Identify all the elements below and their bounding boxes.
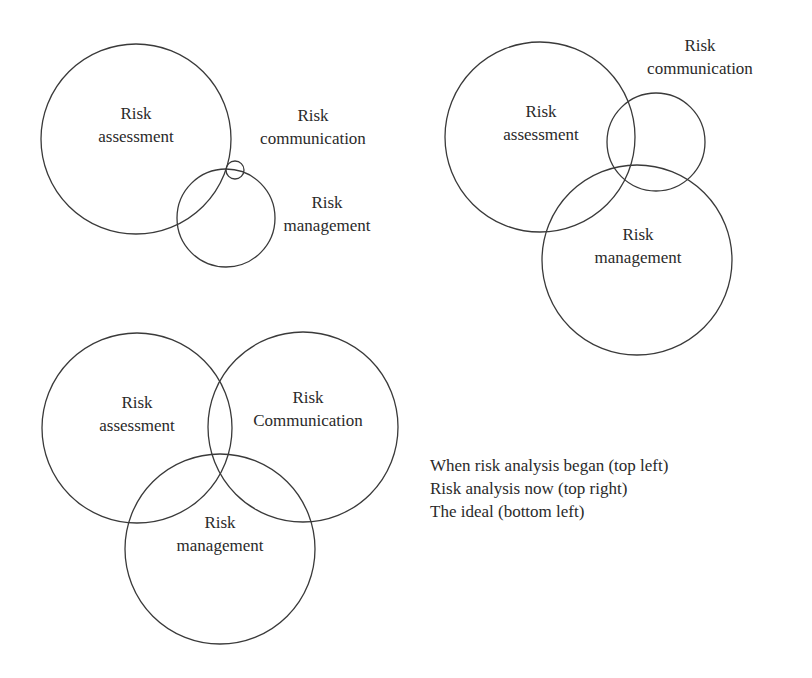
label-risk-communication: RiskCommunication	[253, 386, 363, 432]
label-risk-management: Riskmanagement	[284, 191, 371, 237]
venn-bottom-left	[42, 332, 398, 644]
label-line-2: assessment	[98, 125, 174, 148]
label-line-2: assessment	[503, 123, 579, 146]
label-risk-management: Riskmanagement	[595, 223, 682, 269]
label-line-2: assessment	[99, 414, 175, 437]
label-risk-communication: Riskcommunication	[260, 104, 366, 150]
label-line-1: Risk	[260, 104, 366, 127]
legend-item-bottom-left: The ideal (bottom left)	[430, 500, 668, 523]
label-line-2: management	[177, 534, 264, 557]
label-line-1: Risk	[99, 391, 175, 414]
label-line-1: Risk	[284, 191, 371, 214]
label-line-2: Communication	[253, 409, 363, 432]
label-line-1: Risk	[595, 223, 682, 246]
label-risk-assessment: Riskassessment	[503, 100, 579, 146]
label-line-1: Risk	[177, 511, 264, 534]
label-risk-assessment: Riskassessment	[99, 391, 175, 437]
label-line-2: communication	[647, 57, 753, 80]
label-risk-management: Riskmanagement	[177, 511, 264, 557]
legend-item-top-right: Risk analysis now (top right)	[430, 477, 668, 500]
circle-risk-management	[177, 169, 275, 267]
label-line-2: communication	[260, 127, 366, 150]
label-line-1: Risk	[98, 102, 174, 125]
label-line-1: Risk	[647, 34, 753, 57]
label-line-1: Risk	[253, 386, 363, 409]
label-risk-assessment: Riskassessment	[98, 102, 174, 148]
label-line-2: management	[284, 214, 371, 237]
label-line-1: Risk	[503, 100, 579, 123]
venn-top-right	[445, 42, 732, 355]
venn-top-left	[41, 44, 275, 267]
label-risk-communication: Riskcommunication	[647, 34, 753, 80]
legend: When risk analysis began (top left) Risk…	[430, 454, 668, 523]
circle-risk-communication	[607, 93, 705, 191]
legend-item-top-left: When risk analysis began (top left)	[430, 454, 668, 477]
label-line-2: management	[595, 246, 682, 269]
